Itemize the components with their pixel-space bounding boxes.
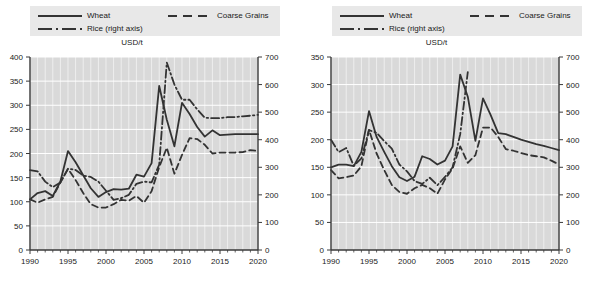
x-axis-tick-label: 1995 <box>360 257 378 266</box>
y-axis-left-tick-label: 100 <box>10 198 24 207</box>
y-axis-right-tick-label: 600 <box>265 81 279 90</box>
y-axis-left-tick-label: 250 <box>311 108 325 117</box>
y-axis-right-tick-label: 200 <box>566 191 580 200</box>
x-axis-tick-label: 2020 <box>550 257 568 266</box>
y-axis-right-tick-label: 300 <box>566 163 580 172</box>
y-axis-right-tick-label: 200 <box>265 191 279 200</box>
x-axis-tick-label: 1995 <box>59 257 77 266</box>
y-axis-right-tick-label: 700 <box>265 53 279 62</box>
y-axis-right-tick-label: 100 <box>265 218 279 227</box>
y-axis-left-tick-label: 300 <box>311 81 325 90</box>
y-axis-right-tick-label: 100 <box>566 218 580 227</box>
y-axis-right-tick-label: 400 <box>265 136 279 145</box>
y-axis-right-tick-label: 600 <box>566 81 580 90</box>
y-axis-right-tick-label: 400 <box>566 136 580 145</box>
plot-area-left: 0501001502002503003504000100200300400500… <box>0 0 300 286</box>
y-axis-left-tick-label: 200 <box>311 136 325 145</box>
x-axis-tick-label: 2015 <box>512 257 530 266</box>
x-axis-tick-label: 2000 <box>398 257 416 266</box>
y-axis-right-tick-label: 500 <box>265 108 279 117</box>
x-axis-tick-label: 2010 <box>474 257 492 266</box>
chart-panel-right: Wheat Rice (right axis) Coarse Grains US… <box>300 0 601 286</box>
y-axis-left-tick-label: 50 <box>315 218 324 227</box>
y-axis-right-tick-label: 0 <box>566 246 571 255</box>
x-axis-tick-label: 1990 <box>21 257 39 266</box>
y-axis-left-tick-label: 350 <box>10 77 24 86</box>
y-axis-right-tick-label: 500 <box>566 108 580 117</box>
y-axis-left-tick-label: 0 <box>320 246 325 255</box>
y-axis-left-tick-label: 400 <box>10 53 24 62</box>
y-axis-left-tick-label: 150 <box>311 163 325 172</box>
y-axis-left-tick-label: 50 <box>14 222 23 231</box>
x-axis-tick-label: 2020 <box>249 257 267 266</box>
y-axis-left-tick-label: 350 <box>311 53 325 62</box>
y-axis-left-tick-label: 150 <box>10 174 24 183</box>
x-axis-tick-label: 2015 <box>211 257 229 266</box>
y-axis-left-tick-label: 250 <box>10 125 24 134</box>
y-axis-left-tick-label: 100 <box>311 191 325 200</box>
x-axis-tick-label: 2005 <box>436 257 454 266</box>
y-axis-left-tick-label: 0 <box>19 246 24 255</box>
x-axis-tick-label: 2000 <box>97 257 115 266</box>
x-axis-tick-label: 1990 <box>322 257 340 266</box>
chart-panel-left: Wheat Rice (right axis) Coarse Grains US… <box>0 0 300 286</box>
plot-area-right: 0501001502002503003500100200300400500600… <box>300 0 601 286</box>
y-axis-right-tick-label: 700 <box>566 53 580 62</box>
y-axis-left-tick-label: 300 <box>10 101 24 110</box>
y-axis-left-tick-label: 200 <box>10 150 24 159</box>
x-axis-tick-label: 2010 <box>173 257 191 266</box>
y-axis-right-tick-label: 300 <box>265 163 279 172</box>
x-axis-tick-label: 2005 <box>135 257 153 266</box>
dual-line-chart-figure: Wheat Rice (right axis) Coarse Grains US… <box>0 0 601 286</box>
y-axis-right-tick-label: 0 <box>265 246 270 255</box>
